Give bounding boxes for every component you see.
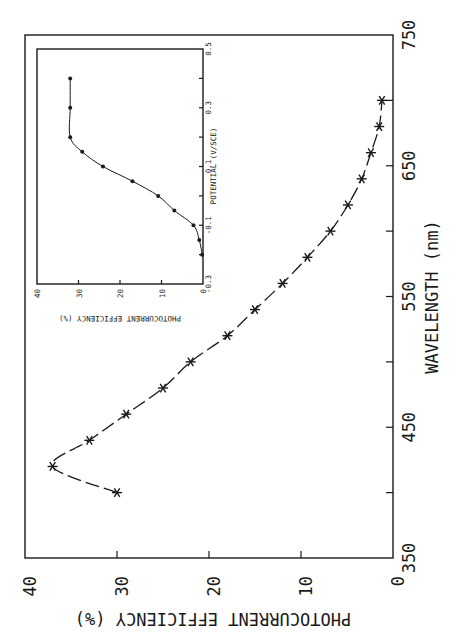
dot-marker: [68, 135, 72, 139]
dot-marker: [101, 165, 105, 169]
dot-marker: [156, 194, 160, 198]
dot-marker: [200, 253, 204, 257]
main-x-tick-label: 750: [399, 20, 419, 51]
main-y-tick-label: 20: [204, 576, 224, 596]
inset-y-axis-title: PHOTOCURRENT EFFICIENCY (%): [59, 314, 181, 323]
dot-marker: [68, 106, 72, 110]
rotated-figure: 350450550650750403020100 WAVELENGTH (nm)…: [0, 0, 467, 635]
inset-y-tick-label: 0: [199, 289, 208, 294]
dot-marker: [130, 179, 134, 183]
inset-tick-labels: -0.3-0.10.10.30.5403020100: [33, 42, 213, 298]
main-x-tick-label: 650: [399, 150, 419, 181]
inset-y-tick-label: 40: [33, 289, 42, 299]
dot-marker: [172, 209, 176, 213]
main-y-axis-title: PHOTOCURRENT EFFICIENCY (%): [75, 609, 351, 629]
inset-x-axis-title: POTENTIAL (V/SCE): [209, 128, 218, 205]
inset-x-tick-label: 0.3: [204, 101, 213, 115]
main-y-tick-label: 40: [20, 576, 40, 596]
main-x-tick-label: 350: [399, 543, 419, 574]
dot-marker: [191, 223, 195, 227]
inset-x-tick-label: -0.1: [204, 216, 213, 234]
main-x-tick-label: 450: [399, 412, 419, 443]
dot-marker: [80, 150, 84, 154]
main-x-tick-label: 550: [399, 281, 419, 312]
inset-data-line: [69, 78, 202, 254]
inset-y-tick-label: 30: [75, 289, 84, 299]
inset-axis-ticks: [79, 78, 204, 284]
main-y-tick-label: 30: [112, 576, 132, 596]
inset-data-markers: [68, 76, 204, 256]
asterisk-marker: [112, 488, 122, 497]
inset-plot-frame: [37, 49, 203, 284]
main-x-axis-title: WAVELENGTH (nm): [422, 220, 442, 374]
main-axis-ticks: [117, 100, 393, 558]
main-y-tick-label: 10: [296, 576, 316, 596]
main-y-tick-label: 0: [388, 576, 408, 586]
asterisk-marker: [325, 227, 335, 236]
inset-y-tick-label: 10: [158, 289, 167, 299]
dot-marker: [68, 76, 72, 80]
dot-marker: [197, 238, 201, 242]
inset-y-tick-label: 20: [116, 289, 125, 299]
inset-x-tick-label: 0.5: [204, 42, 213, 56]
asterisk-marker: [343, 201, 353, 210]
main-tick-labels: 350450550650750403020100: [20, 20, 419, 597]
asterisk-marker: [357, 175, 367, 184]
asterisk-marker: [366, 148, 376, 157]
